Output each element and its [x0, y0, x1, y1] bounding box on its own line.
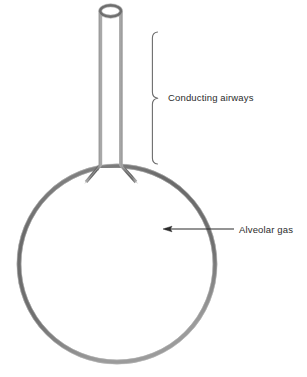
alveolar-sac: [17, 164, 217, 364]
tube-right-wall: [121, 11, 136, 182]
diagram-canvas: Conducting airways Alveolar gas: [0, 0, 307, 377]
alveolar-gas-arrow-icon: [163, 226, 172, 232]
tube-junction-mask: [99, 168, 122, 182]
alveolus-diagram: Conducting airways Alveolar gas: [0, 0, 307, 377]
tube-left-wall-highlight: [85, 13, 99, 183]
tube-left-wall: [86, 11, 101, 182]
annotation-conducting-airways: Conducting airways: [152, 32, 253, 164]
alveolar-gas-label: Alveolar gas: [239, 224, 293, 235]
annotation-alveolar-gas: Alveolar gas: [163, 224, 293, 235]
alveolar-sac-outline: [19, 166, 215, 362]
conducting-airway-tube: [85, 4, 138, 184]
conducting-airways-label: Conducting airways: [168, 92, 254, 103]
tube-right-wall-highlight: [123, 13, 138, 183]
conducting-airways-brace-icon: [152, 32, 157, 164]
alveolar-sac-inner-highlight: [21, 168, 213, 360]
